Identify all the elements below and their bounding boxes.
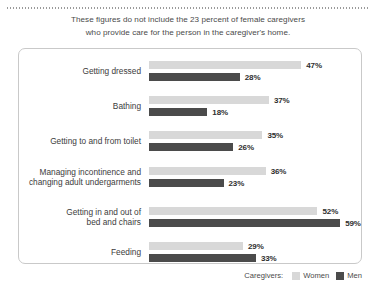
bar-value-men: 28% [245,73,261,82]
bar-group-women: 52% [149,207,338,215]
bar-men [149,219,340,227]
bar-women [149,96,269,104]
header-note: These figures do not include the 23 perc… [0,13,376,39]
chart-row-bars: 37%18% [149,94,363,118]
chart-panel: Getting dressed47%28%Bathing37%18%Gettin… [18,48,362,264]
bar-men [149,73,240,81]
legend-title: Caregivers: [244,271,283,280]
bar-group-men: 18% [149,108,228,116]
chart-row-label: Managing incontinence andchanging adult … [19,167,149,188]
bar-group-women: 35% [149,131,283,139]
legend-label-men: Men [347,271,362,280]
bar-value-women: 52% [322,207,338,216]
chart-row-label-line: Feeding [111,247,141,257]
chart-row-label-line: changing adult undergarments [19,177,141,187]
bar-group-men: 28% [149,73,260,81]
bar-value-women: 37% [274,96,290,105]
chart-row-label: Getting in and out ofbed and chairs [19,207,149,228]
chart-legend: Caregivers: Women Men [244,271,362,280]
chart-row-bars: 52%59% [149,205,363,229]
bar-group-men: 59% [149,219,361,227]
bar-group-women: 36% [149,167,286,175]
legend-swatch-women-icon [292,272,300,280]
chart-row-label-line: Bathing [113,101,141,111]
chart-row-label-line: Getting dressed [82,66,141,76]
legend-item-women: Women [292,271,329,280]
chart-row-bars: 29%33% [149,240,363,264]
bar-value-women: 35% [267,131,283,140]
chart-row: Feeding29%33% [19,240,363,264]
chart-row-label: Getting dressed [19,66,149,76]
chart-row-label-line: Managing incontinence and [40,167,141,177]
bar-value-women: 36% [271,167,287,176]
bar-women [149,167,266,175]
bar-value-women: 47% [306,61,322,70]
header-note-line-1: These figures do not include the 23 perc… [0,13,376,26]
bar-group-women: 29% [149,242,264,250]
bar-men [149,108,207,116]
chart-row: Managing incontinence andchanging adult … [19,165,363,189]
bar-value-men: 33% [261,254,277,263]
bar-women [149,242,243,250]
legend-label-women: Women [303,271,329,280]
legend-item-men: Men [336,271,362,280]
chart-row: Getting dressed47%28% [19,59,363,83]
chart-row: Getting in and out ofbed and chairs52%59… [19,205,363,229]
bar-group-men: 33% [149,254,277,262]
bar-men [149,179,224,187]
chart-row-label: Feeding [19,247,149,257]
bar-value-men: 59% [345,219,361,228]
bar-value-women: 29% [248,242,264,251]
bar-group-men: 23% [149,179,244,187]
bar-group-women: 37% [149,96,290,104]
bar-women [149,131,262,139]
bar-women [149,207,317,215]
chart-row: Getting to and from toilet35%26% [19,129,363,153]
chart-row: Bathing37%18% [19,94,363,118]
chart-rows: Getting dressed47%28%Bathing37%18%Gettin… [19,49,363,265]
bar-group-men: 26% [149,143,254,151]
chart-row-label: Bathing [19,101,149,111]
bar-men [149,254,256,262]
chart-row-label-line: bed and chairs [19,217,141,227]
chart-row-label-line: Getting in and out of [66,207,141,217]
header-note-line-2: who provide care for the person in the c… [0,26,376,39]
bar-group-women: 47% [149,61,322,69]
chart-row-label-line: Getting to and from toilet [50,136,141,146]
bar-value-men: 18% [212,108,228,117]
bar-value-men: 26% [238,143,254,152]
chart-row-bars: 47%28% [149,59,363,83]
chart-row-bars: 36%23% [149,165,363,189]
legend-swatch-men-icon [336,272,344,280]
top-dotted-rule [6,7,370,9]
bar-women [149,61,301,69]
chart-row-bars: 35%26% [149,129,363,153]
bar-value-men: 23% [229,179,245,188]
chart-row-label: Getting to and from toilet [19,136,149,146]
bar-men [149,143,233,151]
